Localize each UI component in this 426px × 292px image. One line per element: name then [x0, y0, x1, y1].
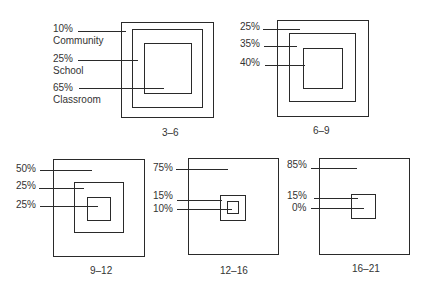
percent-label: 25% [53, 53, 73, 64]
leader-line [177, 200, 222, 201]
leader-line [311, 208, 364, 209]
level-name-label: Community [53, 35, 104, 46]
leader-line [265, 65, 305, 66]
age-range-caption: 3–6 [162, 127, 179, 138]
age-range-caption: 16–21 [352, 263, 380, 274]
inner-square-classroom [144, 43, 192, 94]
leader-line [78, 31, 126, 32]
percent-label: 25% [16, 180, 36, 191]
leader-line [264, 46, 297, 47]
percent-label: 25% [16, 199, 36, 210]
percent-label: 0% [292, 202, 306, 213]
percent-label: 10% [53, 23, 73, 34]
leader-line [176, 169, 228, 170]
leader-line [78, 60, 138, 61]
percent-label: 50% [16, 163, 36, 174]
leader-line [314, 198, 358, 199]
percent-label: 85% [287, 159, 307, 170]
level-name-label: Classroom [53, 94, 101, 105]
percent-label: 40% [240, 57, 260, 68]
percent-label: 15% [153, 190, 173, 201]
inner-square [303, 48, 343, 89]
percent-label: 10% [153, 203, 173, 214]
leader-line [177, 209, 232, 210]
leader-line [263, 29, 300, 30]
percent-label: 15% [287, 190, 307, 201]
percent-label: 25% [240, 21, 260, 32]
leader-line [311, 168, 357, 169]
percent-label: 35% [240, 38, 260, 49]
leader-line [40, 170, 92, 171]
inner-square [87, 197, 111, 221]
leader-line [40, 206, 98, 207]
inner-square [227, 201, 239, 214]
age-range-caption: 12–16 [220, 265, 248, 276]
leader-line [79, 88, 164, 89]
percent-label: 65% [53, 82, 73, 93]
percent-label: 75% [153, 162, 173, 173]
age-range-caption: 6–9 [313, 125, 330, 136]
age-range-caption: 9–12 [90, 265, 112, 276]
leader-line [39, 188, 84, 189]
level-name-label: School [53, 65, 84, 76]
